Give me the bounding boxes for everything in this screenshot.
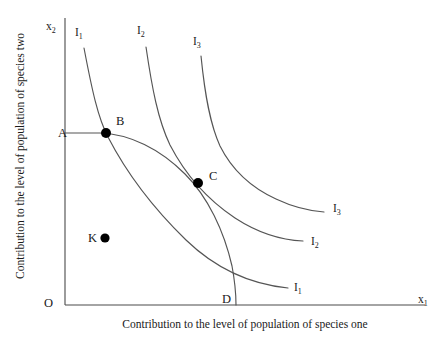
point-label-c: C <box>209 169 217 183</box>
curve-label-i2-end: I2 <box>311 235 319 250</box>
curve-label-i3-top: I3 <box>193 35 201 50</box>
axis-variable-labels: x2 x1 O <box>44 20 428 310</box>
curve-label-i2-top: I2 <box>137 24 145 39</box>
indifference-curves-group <box>84 47 324 288</box>
point-label-a: A <box>58 126 67 140</box>
point-marker-b <box>101 128 111 138</box>
curve-label-i1-end: I1 <box>294 281 302 296</box>
ppf-indifference-curve-figure: x2 x1 O I1 I2 I3 I3 I2 I1 <box>0 0 447 342</box>
ppf-group <box>65 133 236 305</box>
ppf-path <box>65 133 236 305</box>
point-label-b: B <box>116 114 124 128</box>
origin-label: O <box>44 296 53 310</box>
curve-label-i3-end: I3 <box>333 202 341 217</box>
point-marker-k <box>100 233 109 242</box>
indifference-curve-3-path <box>201 56 324 212</box>
y-axis-variable-label: x2 <box>46 20 56 35</box>
x-axis-caption: Contribution to the level of population … <box>60 318 430 330</box>
indifference-curve-2-path <box>146 47 303 241</box>
point-labels-group: A B C D K <box>58 114 231 306</box>
point-label-k: K <box>88 231 97 245</box>
y-axis-caption: Contribution to the level of population … <box>14 0 32 327</box>
indifference-curve-1-path <box>84 48 288 288</box>
plot-canvas: x2 x1 O I1 I2 I3 I3 I2 I1 <box>0 0 447 342</box>
point-label-d: D <box>222 292 231 306</box>
x-axis-variable-label: x1 <box>418 293 428 308</box>
point-marker-c <box>193 178 203 188</box>
curve-label-i1-top: I1 <box>75 26 83 41</box>
curve-end-labels: I3 I2 I1 <box>294 202 341 296</box>
curve-top-labels: I1 I2 I3 <box>75 24 201 50</box>
point-markers-group <box>100 128 203 243</box>
axes-group <box>65 18 425 305</box>
